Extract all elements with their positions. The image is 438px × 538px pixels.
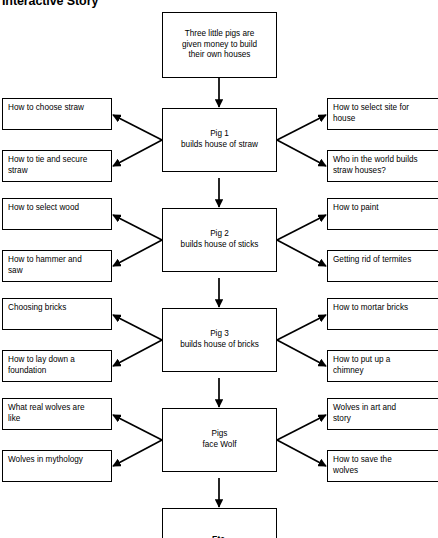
fork-pig3-left-upper [113,315,162,340]
branch-right-5[interactable]: How to mortar bricks [327,298,438,330]
spine-node-wolf[interactable]: Pigs face Wolf [162,408,277,472]
branch-left-6-label: How to lay down a foundation [8,355,106,376]
fork-wolf-right-upper [277,415,326,440]
branch-right-2[interactable]: Who in the world builds straw houses? [327,150,438,182]
spine-node-wolf-label: Pigs face Wolf [203,429,237,450]
flowchart-canvas: Interactive Story [0,0,438,538]
branch-right-3[interactable]: How to paint [327,198,438,230]
fork-pig1-left-upper [113,115,162,140]
fork-pig2-right-upper [277,215,326,240]
page-title: Interactive Story [2,0,98,8]
branch-right-3-label: How to paint [333,203,433,214]
fork-pig1-right-upper [277,115,326,140]
spine-node-pig2[interactable]: Pig 2 builds house of sticks [162,208,277,272]
branch-left-3[interactable]: How to select wood [2,198,112,230]
branch-right-1[interactable]: How to select site for house [327,98,438,130]
fork-wolf-left-upper [113,415,162,440]
branch-left-5-label: Choosing bricks [8,303,106,314]
branch-right-8[interactable]: How to save the wolves [327,450,438,482]
spine-node-pig2-label: Pig 2 builds house of sticks [181,229,259,250]
fork-pig3-right-lower [277,340,326,366]
branch-left-4[interactable]: How to hammer and saw [2,250,112,282]
spine-node-pig3[interactable]: Pig 3 builds house of bricks [162,308,277,372]
branch-left-1[interactable]: How to choose straw [2,98,112,130]
fork-pig2-left-upper [113,215,162,240]
branch-right-4[interactable]: Getting rid of termites [327,250,438,282]
spine-node-start[interactable]: Three little pigs are given money to bui… [162,12,277,78]
branch-right-7[interactable]: Wolves in art and story [327,398,438,430]
fork-wolf-left-lower [113,440,162,466]
branch-left-4-label: How to hammer and saw [8,255,106,276]
branch-right-6[interactable]: How to put up a chimney [327,350,438,382]
branch-right-4-label: Getting rid of termites [333,255,433,266]
branch-right-7-label: Wolves in art and story [333,403,433,424]
spine-node-pig1-label: Pig 1 builds house of straw [181,129,258,150]
fork-wolf-right-lower [277,440,326,466]
spine-node-etc[interactable]: Etc. [162,508,277,538]
branch-left-3-label: How to select wood [8,203,106,214]
spine-node-pig3-label: Pig 3 builds house of bricks [180,329,259,350]
branch-right-8-label: How to save the wolves [333,455,433,476]
branch-left-6[interactable]: How to lay down a foundation [2,350,112,382]
fork-pig3-right-upper [277,315,326,340]
branch-left-8-label: Wolves in mythology [8,455,106,466]
spine-node-start-label: Three little pigs are given money to bui… [182,29,257,61]
branch-right-6-label: How to put up a chimney [333,355,433,376]
fork-pig1-left-lower [113,140,162,166]
branch-left-2-label: How to tie and secure straw [8,155,106,176]
fork-pig1-right-lower [277,140,326,166]
branch-left-2[interactable]: How to tie and secure straw [2,150,112,182]
branch-left-7-label: What real wolves are like [8,403,106,424]
spine-node-pig1[interactable]: Pig 1 builds house of straw [162,108,277,172]
fork-pig2-right-lower [277,240,326,266]
branch-left-1-label: How to choose straw [8,103,106,114]
fork-pig3-left-lower [113,340,162,366]
branch-right-5-label: How to mortar bricks [333,303,433,314]
branch-left-7[interactable]: What real wolves are like [2,398,112,430]
branch-right-1-label: How to select site for house [333,103,433,124]
branch-right-2-label: Who in the world builds straw houses? [333,155,433,176]
fork-pig2-left-lower [113,240,162,266]
branch-left-5[interactable]: Choosing bricks [2,298,112,330]
branch-left-8[interactable]: Wolves in mythology [2,450,112,482]
